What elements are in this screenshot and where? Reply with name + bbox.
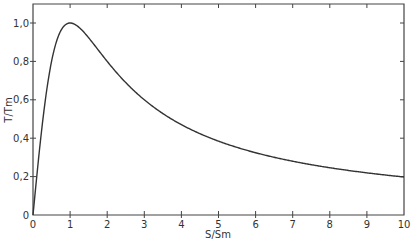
x-tick-label: 7 — [290, 219, 296, 230]
x-axis-ticks: 012345678910 — [30, 4, 411, 230]
plot-frame — [33, 4, 404, 215]
x-tick-label: 1 — [67, 219, 73, 230]
y-tick-label: 1,0 — [13, 18, 29, 29]
y-axis-label: T/Tm — [3, 97, 14, 123]
torque-slip-curve — [33, 23, 404, 215]
y-tick-label: 0,8 — [13, 56, 29, 67]
x-tick-label: 4 — [178, 219, 184, 230]
x-tick-label: 10 — [398, 219, 411, 230]
x-axis-label: S/Sm — [205, 229, 231, 240]
x-tick-label: 2 — [104, 219, 110, 230]
x-tick-label: 6 — [252, 219, 258, 230]
x-tick-label: 8 — [327, 219, 333, 230]
chart: 012345678910 00,20,40,60,81,0 S/Sm T/Tm — [0, 0, 414, 243]
x-tick-label: 0 — [30, 219, 36, 230]
x-tick-label: 3 — [141, 219, 147, 230]
y-tick-label: 0,4 — [13, 133, 29, 144]
x-tick-label: 9 — [364, 219, 370, 230]
y-tick-label: 0 — [23, 210, 29, 221]
y-tick-label: 0,6 — [13, 94, 29, 105]
y-axis-ticks: 00,20,40,60,81,0 — [13, 18, 404, 221]
y-tick-label: 0,2 — [13, 171, 29, 182]
